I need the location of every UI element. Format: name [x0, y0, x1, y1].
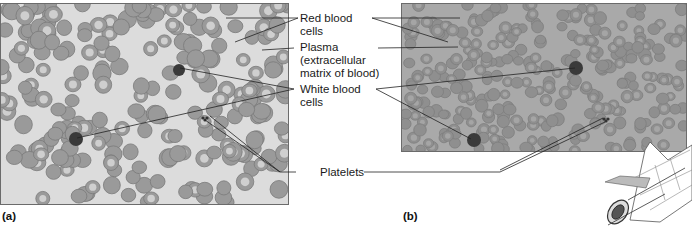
- label-line: Platelets: [320, 166, 364, 179]
- label-line: Red blood: [300, 12, 352, 25]
- label-line: (extracellular: [300, 54, 379, 67]
- label-line: cells: [300, 25, 352, 38]
- label-line: Plasma: [300, 41, 379, 54]
- label-plasma: Plasma (extracellular matrix of blood): [300, 41, 379, 80]
- label-line: cells: [300, 96, 361, 109]
- label-line: matrix of blood): [300, 67, 379, 80]
- label-line: White blood: [300, 83, 361, 96]
- panel-label-a: (a): [2, 210, 16, 222]
- panel-label-b: (b): [403, 210, 418, 222]
- label-white-blood-cells: White blood cells: [300, 83, 361, 109]
- label-red-blood-cells: Red blood cells: [300, 12, 352, 38]
- label-platelets: Platelets: [320, 166, 364, 179]
